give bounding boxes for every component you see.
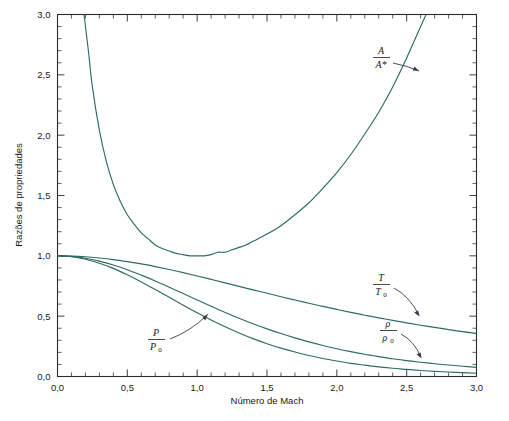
area-ratio-denominator: A* (374, 59, 386, 70)
temperature-ratio-numerator: T (378, 272, 385, 283)
x-tick-label: 3,0 (470, 382, 483, 393)
curve-rho-rho0 (58, 256, 477, 367)
pressure-ratio-numerator: P (152, 327, 159, 338)
y-tick-label: 2,0 (37, 130, 50, 141)
pressure-ratio-arrowhead (203, 314, 209, 321)
x-tick-label: 1,5 (260, 382, 273, 393)
y-tick-label: 2,5 (37, 69, 50, 80)
annotation-area-ratio: A A* (373, 45, 419, 71)
chart-canvas: 0,00,51,01,52,02,53,0 0,00,51,01,52,02,5… (0, 0, 509, 421)
x-tick-label: 2,5 (400, 382, 413, 393)
density-ratio-arrowhead (417, 353, 422, 359)
y-tick-labels: 0,00,51,01,52,02,53,0 (37, 9, 50, 382)
temperature-ratio-denominator-subscript: 0 (383, 291, 387, 299)
y-tick-label: 1,0 (37, 250, 50, 261)
x-tick-label: 1,0 (191, 382, 204, 393)
x-axis-title: Número de Mach (231, 395, 304, 406)
y-axis-title: Razões de propriedades (13, 143, 24, 247)
density-ratio-denominator-subscript: 0 (390, 337, 394, 345)
curve-p-p0 (58, 256, 477, 373)
temperature-ratio-arrowhead (414, 311, 419, 317)
y-tick-label: 0,0 (37, 371, 50, 382)
x-tick-label: 0,0 (51, 382, 64, 393)
density-ratio-numerator: ρ (385, 318, 391, 329)
curve-a-a- (84, 15, 426, 256)
density-ratio-leader-line (401, 334, 421, 357)
annotation-pressure-ratio: P P 0 (148, 314, 208, 354)
isentropic-flow-chart: 0,00,51,01,52,02,53,0 0,00,51,01,52,02,5… (0, 0, 509, 421)
x-tick-label: 0,5 (121, 382, 134, 393)
temperature-ratio-denominator: T (375, 286, 382, 297)
pressure-ratio-denominator: P (149, 341, 156, 352)
density-ratio-denominator: ρ (382, 332, 388, 343)
y-tick-label: 1,5 (37, 190, 50, 201)
annotation-temperature-ratio: T T 0 (373, 272, 420, 317)
area-ratio-arrowhead (413, 67, 419, 71)
pressure-ratio-leader-line (170, 315, 207, 339)
x-tick-label: 2,0 (330, 382, 343, 393)
area-ratio-numerator: A (377, 45, 385, 56)
temperature-ratio-leader-line (394, 288, 419, 315)
x-tick-labels: 0,00,51,01,52,02,53,0 (51, 382, 483, 393)
y-tick-label: 0,5 (37, 311, 50, 322)
pressure-ratio-denominator-subscript: 0 (158, 346, 162, 354)
y-tick-label: 3,0 (37, 9, 50, 20)
